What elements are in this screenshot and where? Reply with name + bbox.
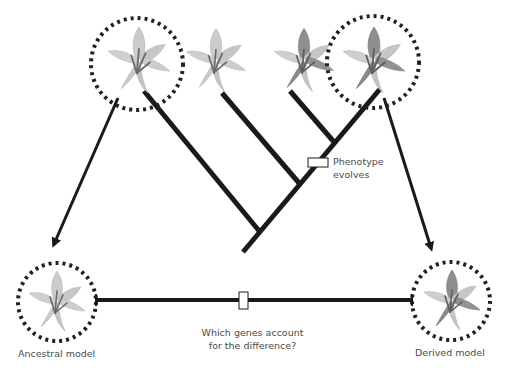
flower-taxon-1	[108, 27, 170, 93]
phenotype-change-marker	[308, 158, 328, 167]
branch-taxon-3	[290, 91, 334, 142]
flower-taxon-4	[343, 27, 405, 93]
genetic-difference-marker	[239, 292, 248, 309]
flower-derived-model	[424, 270, 480, 330]
flower-taxon-2	[187, 29, 246, 92]
arrow-to-ancestral-model	[54, 98, 118, 244]
branch-taxon-1	[144, 91, 260, 232]
arrow-to-derived-model	[384, 98, 431, 248]
phenotype-label-line2: evolves	[333, 168, 384, 181]
branch-taxon-2	[222, 93, 299, 183]
question-label: Which genes account for the difference?	[200, 326, 305, 352]
question-label-line1: Which genes account	[200, 326, 305, 339]
derived-model-label: Derived model	[415, 346, 485, 359]
diagram-canvas	[0, 0, 508, 373]
flower-ancestral-model	[29, 271, 85, 331]
question-label-line2: for the difference?	[200, 339, 305, 352]
phenotype-label-line1: Phenotype	[333, 155, 384, 168]
ancestral-model-label: Ancestral model	[18, 347, 95, 360]
phenotype-label: Phenotype evolves	[333, 155, 384, 181]
flower-taxon-3	[275, 29, 334, 92]
